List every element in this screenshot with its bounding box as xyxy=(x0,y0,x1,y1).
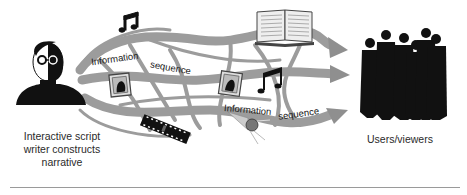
arrow-head-middle xyxy=(330,65,350,83)
bottom-divider xyxy=(10,187,460,188)
arrow-head-top xyxy=(328,37,348,58)
writer-caption-line-2: writer constructs xyxy=(12,143,112,156)
framed-picture-icon xyxy=(109,73,131,97)
arrowheads xyxy=(326,37,350,124)
people-group-icon xyxy=(360,28,447,120)
writer-caption: Interactive script writer constructs nar… xyxy=(12,130,112,169)
writer-caption-line-3: narrative xyxy=(12,156,112,169)
framed-picture-icon xyxy=(218,71,242,97)
writer-portrait-icon xyxy=(16,41,86,105)
open-book-icon xyxy=(255,10,314,47)
music-note-icon xyxy=(119,12,138,32)
writer-caption-line-1: Interactive script xyxy=(12,130,112,143)
users-caption: Users/viewers xyxy=(355,133,445,145)
